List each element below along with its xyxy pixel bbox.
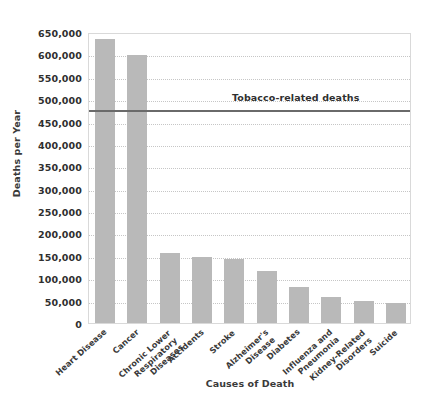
bar <box>95 39 115 323</box>
y-axis-tick-label: 600,000 <box>0 50 82 61</box>
y-axis-title: Deaths per Year <box>11 94 22 214</box>
bar <box>192 257 212 323</box>
x-axis-tick-label: Stroke <box>208 328 237 356</box>
y-axis-tick-label: 100,000 <box>0 274 82 285</box>
y-axis-tick-label: 250,000 <box>0 207 82 218</box>
y-axis-tick-label: 550,000 <box>0 72 82 83</box>
y-axis-tick-label: 150,000 <box>0 251 82 262</box>
y-axis-tick-label: 200,000 <box>0 229 82 240</box>
bar-chart: Deaths per Year Causes of Death 050,0001… <box>0 0 432 407</box>
y-axis-tick-label: 400,000 <box>0 139 82 150</box>
bar <box>127 55 147 323</box>
bar <box>160 253 180 323</box>
tobacco-reference-label: Tobacco-related deaths <box>232 92 359 103</box>
y-axis-tick-label: 500,000 <box>0 95 82 106</box>
y-axis-tick-label: 0 <box>0 319 82 330</box>
bar <box>321 297 341 323</box>
bar <box>386 303 406 323</box>
tobacco-reference-line <box>89 110 410 112</box>
bar <box>257 271 277 323</box>
y-axis-tick-label: 650,000 <box>0 28 82 39</box>
x-axis-tick-label: Heart Disease <box>54 328 109 379</box>
y-axis-tick-label: 450,000 <box>0 117 82 128</box>
x-axis-tick-label: Cancer <box>111 328 141 357</box>
bar <box>224 259 244 323</box>
bar <box>354 301 374 323</box>
plot-area <box>88 33 411 324</box>
y-axis-tick-label: 50,000 <box>0 296 82 307</box>
y-axis-tick-label: 350,000 <box>0 162 82 173</box>
y-axis-tick-label: 300,000 <box>0 184 82 195</box>
bar <box>289 287 309 323</box>
